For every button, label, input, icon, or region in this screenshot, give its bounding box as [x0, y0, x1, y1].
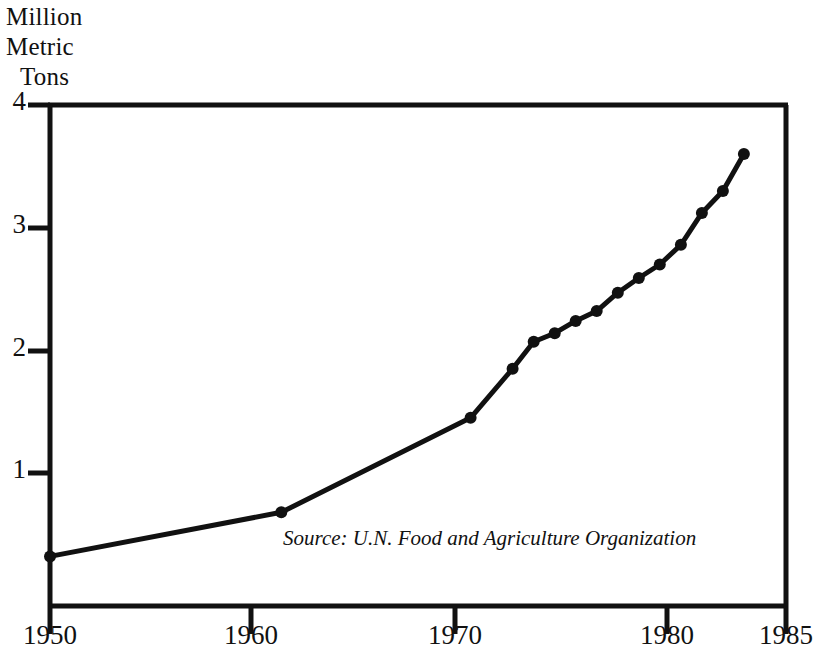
data-point [717, 185, 729, 197]
data-point [612, 287, 624, 299]
y-tick-label-2: 2 [0, 334, 26, 361]
x-tick-label-1960: 1960 [196, 622, 306, 649]
data-point [549, 327, 561, 339]
y-tick-label-4: 4 [0, 88, 26, 115]
data-point [591, 305, 603, 317]
data-point [507, 363, 519, 375]
data-point [528, 336, 540, 348]
data-point [675, 239, 687, 251]
data-point [633, 272, 645, 284]
chart-figure: MillionMetricTons 4 3 2 1 [0, 0, 816, 658]
series-markers [44, 148, 750, 562]
x-tick-label-1970: 1970 [400, 622, 510, 649]
data-point [44, 550, 56, 562]
data-point [570, 315, 582, 327]
series-line [50, 154, 744, 556]
y-tick-label-1: 1 [0, 456, 26, 483]
data-point [465, 412, 477, 424]
source-note: Source: U.N. Food and Agriculture Organi… [283, 526, 696, 550]
x-tick-label-1980: 1980 [612, 622, 722, 649]
data-point [738, 148, 750, 160]
data-point [696, 207, 708, 219]
data-point [654, 259, 666, 271]
y-axis-ticks [28, 105, 50, 473]
plot-area [0, 0, 816, 658]
data-point [275, 506, 287, 518]
x-tick-label-1985: 1985 [731, 622, 816, 649]
y-tick-label-3: 3 [0, 211, 26, 238]
x-tick-label-1950: 1950 [0, 622, 105, 649]
